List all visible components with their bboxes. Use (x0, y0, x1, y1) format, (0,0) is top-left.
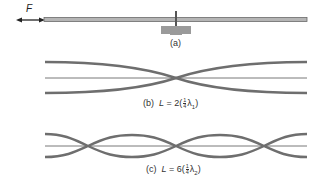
caption-b-close: ) (195, 98, 198, 108)
mode-shape-b (45, 62, 307, 93)
caption-c-eq: = 6( (167, 164, 185, 174)
caption-c-prefix: (c) (146, 164, 157, 174)
clamp-support (161, 11, 191, 35)
caption-b-prefix: (b) (143, 98, 154, 108)
mode-shape-c (45, 134, 307, 157)
caption-c-fraction: 14 (186, 164, 189, 175)
force-arrow (16, 18, 45, 23)
caption-b: (b) L = 2(14λ1) (143, 98, 198, 110)
caption-a: (a) (170, 38, 181, 48)
caption-c-close: ) (198, 164, 201, 174)
caption-b-eq: = 2( (164, 98, 182, 108)
force-label: F (26, 3, 32, 14)
diagram-canvas (0, 0, 323, 182)
caption-c: (c) L = 6(14λ2) (146, 164, 201, 176)
caption-b-fraction: 14 (183, 98, 186, 109)
